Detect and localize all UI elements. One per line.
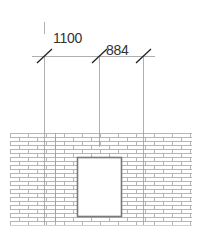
elevation-drawing	[0, 0, 200, 239]
dimension-label-1100: 1100	[53, 31, 82, 45]
window-opening	[78, 158, 122, 217]
dimension-label-884: 884	[106, 43, 128, 57]
dimension-ticks	[37, 49, 151, 63]
